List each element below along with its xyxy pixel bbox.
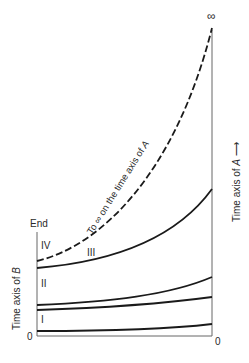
diagram-canvas: End 0 0 ∞ I II III IV Time axis of B Tim… xyxy=(0,0,249,363)
label-zero-right: 0 xyxy=(215,336,221,347)
label-end: End xyxy=(30,218,48,229)
dashed-curve-label: To ∞ on the time axis of A xyxy=(84,138,151,236)
region-label-III: III xyxy=(87,247,95,258)
curve-III xyxy=(37,189,212,268)
label-infinity: ∞ xyxy=(207,9,216,23)
curve-dashed-infinity xyxy=(37,28,212,261)
region-label-II: II xyxy=(41,278,47,289)
curve-boundary-I xyxy=(37,324,212,331)
region-label-IV: IV xyxy=(41,240,51,251)
left-axis-label: Time axis of B xyxy=(11,267,22,330)
right-axis-label: Time axis of A⟶ xyxy=(231,142,242,222)
label-zero-left: 0 xyxy=(27,331,33,342)
region-label-I: I xyxy=(41,314,44,325)
